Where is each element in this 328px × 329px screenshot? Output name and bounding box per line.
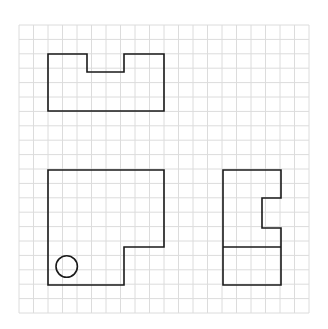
front-view-hole-circle xyxy=(56,256,77,277)
diagram-canvas xyxy=(0,0,328,329)
side-view-shape xyxy=(223,170,281,285)
